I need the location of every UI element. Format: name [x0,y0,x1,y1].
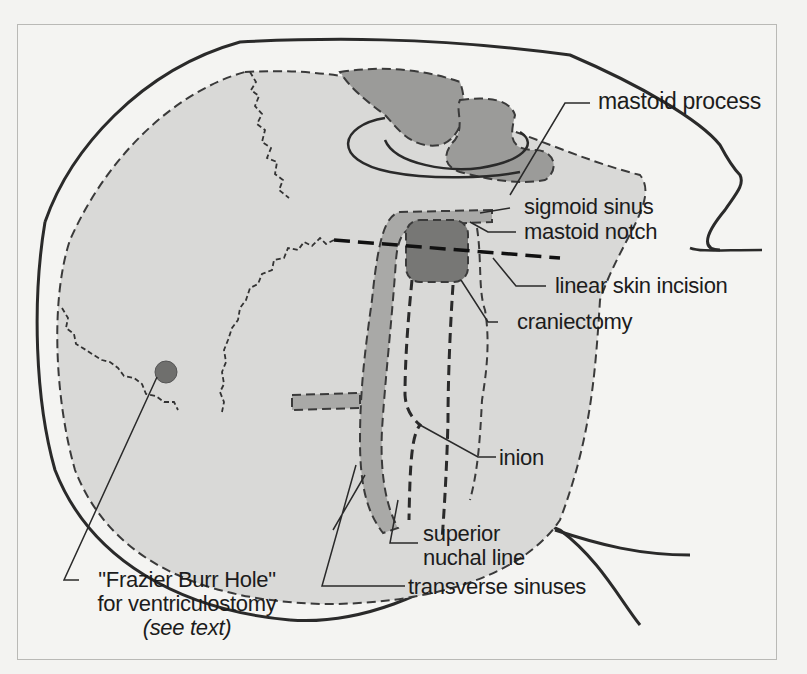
label-sigmoid-sinus: sigmoid sinus [524,195,653,219]
mastoid-notch-line [690,248,762,251]
label-mastoid-process: mastoid process [598,89,761,113]
label-transverse-sinuses: transverse sinuses [408,575,586,599]
bone-surface [57,71,645,604]
label-frazier-burr-hole: "Frazier Burr Hole" [72,568,302,592]
label-superior-nuchal-line-2: nuchal line [423,546,525,570]
label-superior-nuchal-line-1: superior [423,522,500,546]
label-inion: inion [499,446,544,470]
transverse-sinus-stub [292,393,360,410]
label-mastoid-notch: mastoid notch [524,220,657,244]
label-frazier-ventriculostomy: for ventriculostomy [72,592,302,616]
label-craniectomy: craniectomy [517,310,632,334]
label-linear-skin-incision: linear skin incision [555,274,728,298]
label-see-text: (see text) [72,616,302,640]
frazier-burr-hole [155,361,177,383]
